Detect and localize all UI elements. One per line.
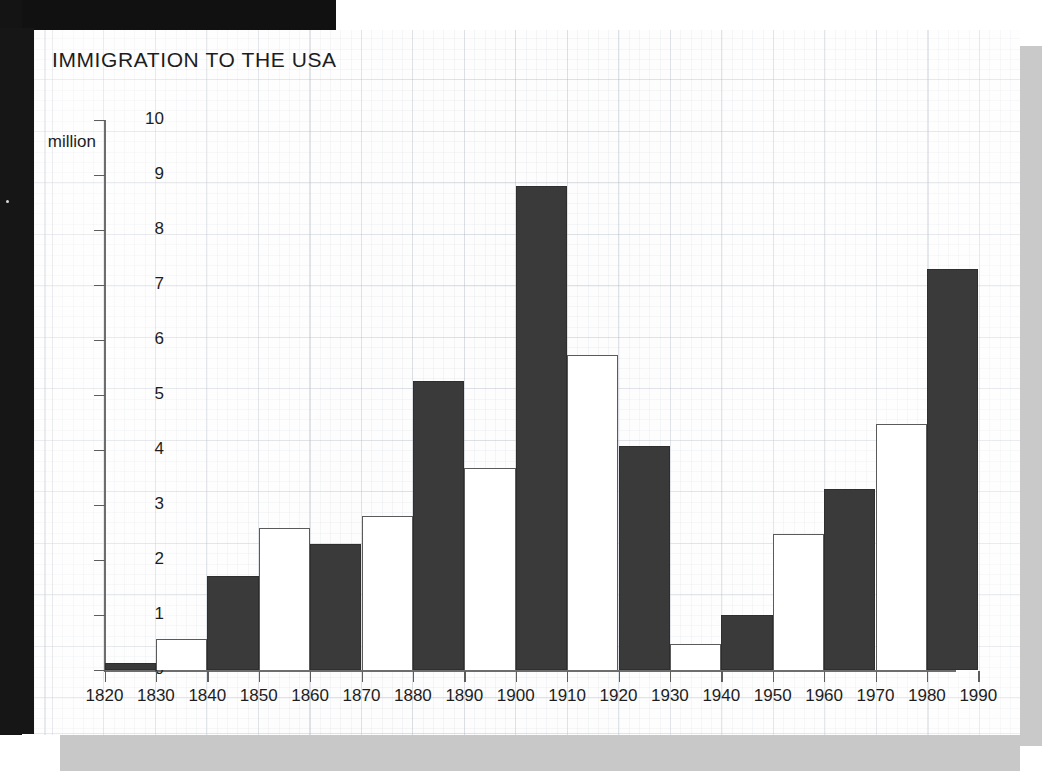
y-axis-tick-label: 4 xyxy=(112,439,164,459)
x-axis-tick-label: 1930 xyxy=(644,686,695,706)
y-axis-tick xyxy=(94,175,105,176)
page-title: IMMIGRATION TO THE USA xyxy=(52,48,337,72)
y-axis-tick xyxy=(94,285,105,286)
y-axis-tick xyxy=(94,505,105,506)
bar-1950 xyxy=(773,534,824,670)
x-axis-line xyxy=(104,670,956,672)
scan-speck xyxy=(6,200,9,203)
y-axis-tick-label: 2 xyxy=(112,549,164,569)
y-axis-tick-label: 7 xyxy=(112,274,164,294)
x-axis-tick xyxy=(105,671,106,682)
x-axis-tick-label: 1820 xyxy=(79,686,130,706)
bar-1840 xyxy=(207,576,258,670)
page-shadow-right xyxy=(1020,46,1042,746)
bar-1820 xyxy=(105,663,156,670)
x-axis-tick xyxy=(876,671,877,682)
x-axis-tick-label: 1900 xyxy=(490,686,541,706)
x-axis-tick-label: 1850 xyxy=(233,686,284,706)
x-axis-tick-label: 1910 xyxy=(541,686,592,706)
x-axis-tick xyxy=(721,671,722,682)
y-axis-tick-label: 10 xyxy=(112,109,164,129)
x-axis-tick xyxy=(207,671,208,682)
x-axis-tick xyxy=(824,671,825,682)
x-axis-tick-label: 1880 xyxy=(387,686,438,706)
y-axis-unit-label: million xyxy=(44,132,96,152)
chart-page: IMMIGRATION TO THE USA 012345678910milli… xyxy=(34,30,1020,735)
y-axis-tick-label: 8 xyxy=(112,219,164,239)
x-axis-tick-label: 1830 xyxy=(130,686,181,706)
bar-1850 xyxy=(259,528,310,670)
y-axis-tick xyxy=(94,450,105,451)
x-axis-tick xyxy=(773,671,774,682)
bar-1880 xyxy=(413,381,464,670)
x-axis-tick xyxy=(156,671,157,682)
x-axis-tick xyxy=(670,671,671,682)
bar-1860 xyxy=(310,544,361,671)
bar-1870 xyxy=(362,516,413,670)
x-axis-tick xyxy=(927,671,928,682)
bar-1910 xyxy=(567,355,618,670)
y-axis-tick-label: 6 xyxy=(112,329,164,349)
x-axis-tick xyxy=(310,671,311,682)
y-axis-tick xyxy=(94,230,105,231)
scan-edge-top xyxy=(0,0,336,30)
y-axis-tick-label: 5 xyxy=(112,384,164,404)
bar-1970 xyxy=(876,424,927,670)
page-shadow-bottom xyxy=(60,735,1020,771)
y-axis-tick-label: 3 xyxy=(112,494,164,514)
plot-area: 012345678910million 18201830184018501860… xyxy=(104,120,956,705)
x-axis-tick-label: 1840 xyxy=(182,686,233,706)
bar-1900 xyxy=(516,186,567,670)
bar-1980 xyxy=(927,269,978,671)
bar-1920 xyxy=(619,446,670,670)
x-axis-tick-label: 1950 xyxy=(747,686,798,706)
bar-1890 xyxy=(464,468,515,670)
y-axis-tick xyxy=(94,560,105,561)
y-axis-tick xyxy=(94,395,105,396)
x-axis-tick xyxy=(413,671,414,682)
y-axis-tick xyxy=(94,120,105,121)
x-axis-tick xyxy=(259,671,260,682)
x-axis-tick xyxy=(619,671,620,682)
bar-1830 xyxy=(156,639,207,670)
x-axis-tick-label: 1960 xyxy=(798,686,849,706)
x-axis-tick-label: 1920 xyxy=(593,686,644,706)
bar-1930 xyxy=(670,644,721,670)
x-axis-tick xyxy=(978,671,979,682)
x-axis-tick-label: 1980 xyxy=(901,686,952,706)
y-axis-labels: 012345678910million xyxy=(104,120,164,705)
x-axis-tick xyxy=(464,671,465,682)
y-axis-tick xyxy=(94,615,105,616)
scan-edge-left-inner xyxy=(0,28,34,734)
x-axis-tick-label: 1860 xyxy=(284,686,335,706)
bar-1960 xyxy=(824,489,875,671)
x-axis-tick xyxy=(362,671,363,682)
y-axis-tick xyxy=(94,670,105,671)
x-axis-tick xyxy=(567,671,568,682)
x-axis-tick-label: 1890 xyxy=(439,686,490,706)
x-axis-tick xyxy=(516,671,517,682)
x-axis-tick-label: 1990 xyxy=(953,686,1004,706)
x-axis-tick-label: 1970 xyxy=(850,686,901,706)
x-axis-tick-label: 1870 xyxy=(336,686,387,706)
y-axis-tick xyxy=(94,340,105,341)
x-axis-tick-label: 1940 xyxy=(696,686,747,706)
bar-1940 xyxy=(721,615,772,670)
y-axis-tick-label: 1 xyxy=(112,604,164,624)
y-axis-tick-label: 9 xyxy=(112,164,164,184)
